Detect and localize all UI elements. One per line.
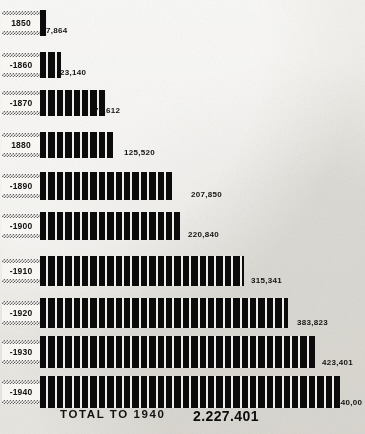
stipple-border-top: [2, 133, 40, 137]
year-label-text: -1860: [10, 61, 33, 70]
year-label-text: -1890: [10, 182, 33, 191]
bar: [40, 52, 61, 78]
year-label-text: -1920: [10, 309, 33, 318]
year-label-text: 1880: [11, 141, 31, 150]
bar: [40, 172, 172, 200]
year-label-text: -1900: [10, 222, 33, 231]
bar-value-label: 220,840: [188, 230, 219, 239]
bar: [40, 336, 315, 368]
year-label-box: -1910: [2, 259, 40, 283]
stipple-border-bottom: [2, 73, 40, 77]
year-label-text: -1940: [10, 388, 33, 397]
bar-value-label: 79,612: [94, 106, 120, 115]
stipple-border-top: [2, 214, 40, 218]
stipple-border-top: [2, 259, 40, 263]
year-label-text: -1930: [10, 348, 33, 357]
bar-value-label: 7,864: [46, 26, 68, 35]
bar-value-label: 125,520: [124, 148, 155, 157]
bar: [40, 376, 340, 408]
year-label-box: -1900: [2, 214, 40, 238]
stipple-border-top: [2, 380, 40, 384]
year-label-box: 1850: [2, 11, 40, 35]
stipple-border-bottom: [2, 234, 40, 238]
stipple-border-bottom: [2, 31, 40, 35]
stipple-border-bottom: [2, 360, 40, 364]
total-value: 2.227.401: [193, 408, 259, 424]
bar: [40, 132, 113, 158]
year-label-text: -1910: [10, 267, 33, 276]
year-label-box: -1890: [2, 174, 40, 198]
stipple-border-top: [2, 174, 40, 178]
stipple-border-bottom: [2, 279, 40, 283]
year-label-box: 1880: [2, 133, 40, 157]
bar-value-label: 315,341: [251, 276, 282, 285]
year-label-text: 1850: [11, 19, 31, 28]
stipple-border-bottom: [2, 400, 40, 404]
bar: [40, 298, 288, 328]
stipple-border-top: [2, 11, 40, 15]
year-label-box: -1920: [2, 301, 40, 325]
stipple-border-top: [2, 53, 40, 57]
stipple-border-bottom: [2, 153, 40, 157]
stipple-border-bottom: [2, 111, 40, 115]
year-label-text: -1870: [10, 99, 33, 108]
bar: [40, 212, 180, 240]
total-label: TOTAL TO 1940: [60, 408, 166, 420]
bar: [40, 256, 244, 286]
bar-value-label: 423,401: [322, 358, 353, 367]
stipple-border-bottom: [2, 194, 40, 198]
stipple-border-top: [2, 301, 40, 305]
bar-value-label: 383,823: [297, 318, 328, 327]
bar-value-label: 23,140: [60, 68, 86, 77]
stipple-border-top: [2, 340, 40, 344]
year-label-box: -1940: [2, 380, 40, 404]
bar-value-label: 440,00: [336, 398, 362, 407]
year-label-box: -1930: [2, 340, 40, 364]
bar-value-label: 207,850: [191, 190, 222, 199]
stipple-border-bottom: [2, 321, 40, 325]
chart-root: 18507,864-186023,140-187079,6121880125,5…: [0, 0, 365, 434]
year-label-box: -1870: [2, 91, 40, 115]
stipple-border-top: [2, 91, 40, 95]
year-label-box: -1860: [2, 53, 40, 77]
